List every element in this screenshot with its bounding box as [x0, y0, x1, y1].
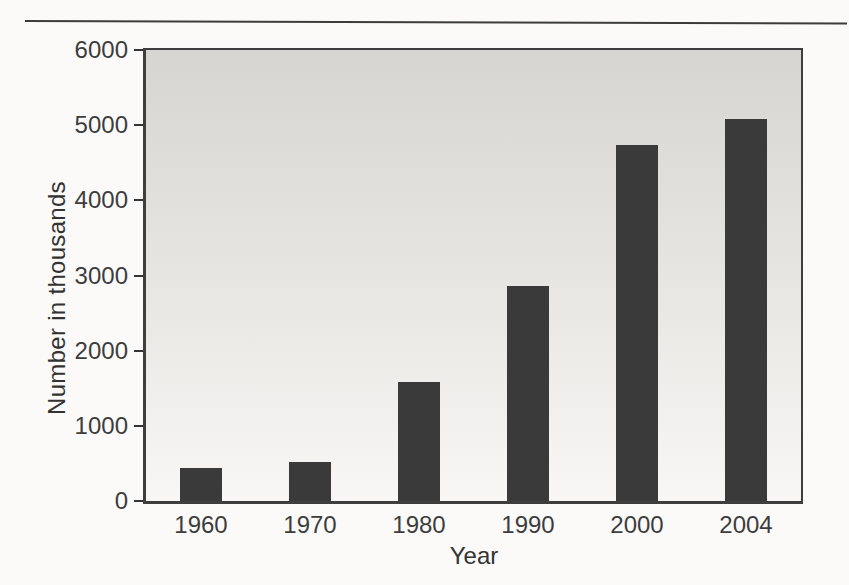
x-tick-label-2004: 2004 — [686, 511, 806, 539]
y-tick-label-1000: 1000 — [38, 411, 128, 441]
y-tick-label-5000: 5000 — [38, 110, 128, 140]
y-tick-label-4000: 4000 — [38, 185, 128, 215]
y-tick-mark-1000 — [134, 425, 143, 427]
y-tick-mark-6000 — [134, 49, 143, 51]
bar-1960 — [180, 468, 222, 501]
bar-2004 — [725, 119, 767, 501]
x-tick-label-2000: 2000 — [577, 511, 697, 539]
bar-1970 — [289, 462, 331, 501]
x-tick-label-1990: 1990 — [468, 511, 588, 539]
y-tick-mark-3000 — [134, 275, 143, 277]
y-tick-mark-4000 — [134, 199, 143, 201]
top-rule — [25, 20, 847, 25]
x-axis-title: Year — [450, 542, 499, 570]
y-tick-label-2000: 2000 — [38, 336, 128, 366]
x-tick-label-1980: 1980 — [359, 511, 479, 539]
bar-1990 — [507, 286, 549, 501]
bar-2000 — [616, 145, 658, 501]
y-tick-mark-0 — [134, 500, 143, 502]
plot-area — [143, 48, 803, 504]
figure: Number in thousands Year 010002000300040… — [0, 0, 849, 585]
x-tick-label-1960: 1960 — [141, 511, 261, 539]
y-tick-mark-5000 — [134, 124, 143, 126]
x-tick-label-1970: 1970 — [250, 511, 370, 539]
y-tick-label-6000: 6000 — [38, 35, 128, 65]
y-tick-label-3000: 3000 — [38, 261, 128, 291]
y-tick-label-0: 0 — [38, 486, 128, 516]
bar-1980 — [398, 382, 440, 501]
y-axis-title: Number in thousands — [43, 181, 71, 415]
y-tick-mark-2000 — [134, 350, 143, 352]
